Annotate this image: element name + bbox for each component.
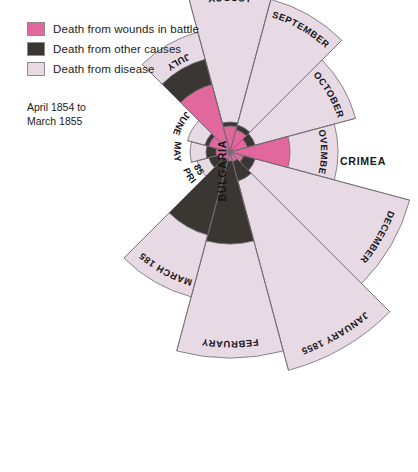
region-label-bulgaria: BULGARIA — [216, 140, 228, 202]
legend-swatch-other — [27, 42, 45, 56]
legend-item-wounds: Death from wounds in battle — [27, 20, 199, 37]
sector-label-june: JUNE — [171, 110, 193, 138]
legend-label-disease: Death from disease — [53, 62, 155, 76]
sector-label-may: MAY — [172, 141, 184, 163]
legend-swatch-wounds — [27, 22, 45, 36]
date-range-caption: April 1854 to March 1855 — [27, 100, 86, 128]
legend-label-other: Death from other causes — [53, 42, 181, 56]
legend-item-other: Death from other causes — [27, 40, 199, 57]
legend-item-disease: Death from disease — [27, 60, 199, 77]
legend-label-wounds: Death from wounds in battle — [53, 22, 199, 36]
legend: Death from wounds in battle Death from o… — [27, 20, 199, 80]
legend-swatch-disease — [27, 62, 45, 76]
region-label-crimea: CRIMEA — [340, 155, 386, 167]
